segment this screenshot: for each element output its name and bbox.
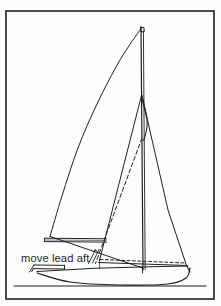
boom-top	[45, 238, 107, 239]
boom-bottom	[45, 242, 107, 243]
sailboat-profile-diagram: move lead aft	[0, 0, 221, 306]
figure-root: move lead aft	[0, 0, 221, 306]
move-lead-aft-label: move lead aft	[21, 252, 90, 264]
